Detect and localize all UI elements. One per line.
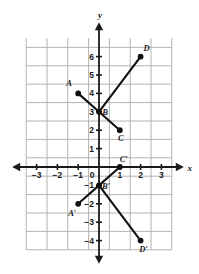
y-tick-label-5: 5 (89, 70, 94, 80)
point-label-D-prime: D′ (138, 244, 148, 254)
data-point-C-prime (117, 164, 123, 170)
point-label-A: A (65, 78, 72, 88)
axes (12, 22, 184, 264)
y-tick-label--4: −4 (84, 236, 94, 246)
x-tick-label-2: 2 (138, 170, 143, 180)
axis-names: xy (97, 10, 193, 172)
point-label-B: B (101, 107, 108, 117)
y-tick-label-2: 2 (89, 125, 94, 135)
x-axis-label: x (187, 163, 193, 173)
y-tick-label-6: 6 (89, 52, 94, 62)
point-label-C-prime: C′ (120, 154, 128, 164)
x-tick-label--2: −2 (53, 170, 63, 180)
y-tick-label-4: 4 (89, 88, 94, 98)
y-tick-label--3: −3 (84, 217, 94, 227)
point-label-A-prime: A′ (67, 208, 76, 218)
y-tick-label--2: −2 (84, 199, 94, 209)
point-label-C: C (118, 133, 124, 143)
coordinate-plane-figure: −3−2−10123654321−1−2−3−4 ABCDA′B′C′D′ xy (0, 0, 199, 274)
point-label-B-prime: B′ (101, 181, 110, 191)
x-tick-label--3: −3 (32, 170, 42, 180)
x-tick-label--1: −1 (73, 170, 83, 180)
y-tick-label-1: 1 (89, 144, 94, 154)
x-tick-label-origin: 0 (90, 170, 95, 180)
x-tick-label-3: 3 (159, 170, 164, 180)
point-label-D: D (143, 43, 150, 53)
data-point-D (138, 54, 144, 60)
data-point-B (96, 109, 102, 115)
data-point-A-prime (75, 201, 81, 207)
y-axis-label: y (97, 10, 103, 20)
data-point-A (75, 91, 81, 97)
point-labels: ABCDA′B′C′D′ (65, 43, 149, 254)
x-tick-label-1: 1 (117, 170, 122, 180)
coordinate-graph: −3−2−10123654321−1−2−3−4 ABCDA′B′C′D′ xy (0, 0, 199, 274)
y-tick-label--1: −1 (84, 180, 94, 190)
